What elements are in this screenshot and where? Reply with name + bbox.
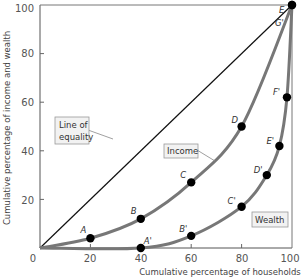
lorenz-curve-chart: 100 80 60 40 20 0 20 40 60 80 100 Cumula… [0, 0, 303, 279]
point-label: G' [275, 18, 284, 28]
point-label: F' [273, 87, 280, 97]
y-tick-label: 100 [15, 3, 34, 14]
x-axis-title: Cumulative percentage of households [139, 267, 301, 277]
data-point [237, 122, 245, 130]
wealth-label: Wealth [252, 212, 288, 227]
point-label: D [232, 115, 239, 125]
y-axis-title: Cumulative percentage of income and weal… [2, 31, 12, 225]
income-label: Income [164, 144, 198, 158]
y-tick-label: 40 [21, 146, 34, 157]
y-tick-label: 60 [21, 97, 34, 108]
x-tick-label: 80 [236, 253, 249, 264]
svg-text:Line of: Line of [59, 120, 89, 130]
x-tick-label: 20 [84, 253, 97, 264]
point-label: A [79, 225, 86, 235]
point-label: E [279, 5, 285, 15]
y-tick-label: 20 [21, 195, 34, 206]
svg-text:Income: Income [167, 146, 198, 156]
x-tick-label: 0 [30, 253, 36, 264]
data-point [187, 232, 195, 240]
svg-text:Wealth: Wealth [255, 215, 284, 225]
x-tick-label: 60 [185, 253, 198, 264]
data-point [187, 178, 195, 186]
line-of-equality-label: Line of equality [55, 117, 93, 144]
data-point [137, 215, 145, 223]
data-point [86, 234, 94, 242]
point-label: B' [179, 224, 187, 234]
x-tick-label: 40 [135, 253, 148, 264]
svg-text:equality: equality [59, 132, 93, 142]
data-point [283, 93, 291, 101]
data-point [263, 171, 271, 179]
point-label: C' [228, 196, 236, 206]
point-label: A' [143, 236, 152, 246]
data-point [288, 1, 296, 9]
point-label: E' [266, 136, 274, 146]
data-point [275, 142, 283, 150]
income-leader-line [197, 150, 215, 161]
x-tick-label: 100 [280, 253, 299, 264]
y-tick-label: 80 [21, 48, 34, 59]
point-label: D' [254, 165, 263, 175]
data-point [237, 202, 245, 210]
point-label: C [180, 170, 186, 180]
point-label: B [131, 206, 137, 216]
